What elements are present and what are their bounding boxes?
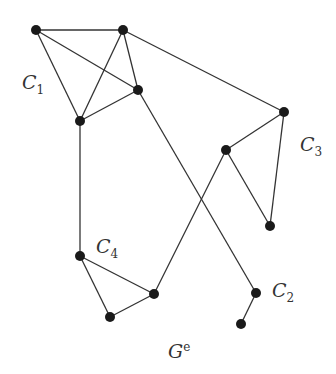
node-f: [221, 145, 231, 155]
label-c4: C4: [96, 235, 118, 261]
label-graph-main: G: [168, 340, 183, 362]
node-i: [149, 289, 159, 299]
edge-j-i: [110, 294, 154, 317]
edge-e-g: [270, 112, 284, 226]
label-c1-sub: 1: [37, 83, 45, 97]
label-c4-main: C: [96, 235, 111, 257]
node-e: [279, 107, 289, 117]
label-c1: C1: [22, 71, 44, 97]
edge-b-e: [123, 30, 284, 112]
label-graph: Ge: [168, 340, 190, 362]
node-j: [105, 312, 115, 322]
label-c3: C3: [300, 133, 322, 159]
edges: [36, 30, 284, 324]
node-g: [265, 221, 275, 231]
edge-h-i: [80, 256, 154, 294]
edge-b-c: [123, 30, 138, 90]
label-c2-sub: 2: [287, 291, 295, 305]
node-a: [31, 25, 41, 35]
label-c2-main: C: [272, 279, 287, 301]
edge-h-j: [80, 256, 110, 317]
label-c3-sub: 3: [315, 145, 323, 159]
edge-b-d: [80, 30, 123, 121]
edge-d-c: [80, 90, 138, 121]
edge-f-g: [226, 150, 270, 226]
node-h: [75, 251, 85, 261]
node-c: [133, 85, 143, 95]
label-c4-sub: 4: [111, 247, 119, 261]
edge-a-c: [36, 30, 138, 90]
node-d: [75, 116, 85, 126]
edge-c-k: [138, 90, 256, 293]
label-c3-main: C: [300, 133, 315, 155]
edge-k-l: [241, 293, 256, 324]
node-l: [236, 319, 246, 329]
label-c2: C2: [272, 279, 294, 305]
label-graph-sup: e: [183, 340, 190, 354]
edge-e-f: [226, 112, 284, 150]
graph-canvas: [0, 0, 336, 374]
label-c1-main: C: [22, 71, 37, 93]
node-k: [251, 288, 261, 298]
node-b: [118, 25, 128, 35]
